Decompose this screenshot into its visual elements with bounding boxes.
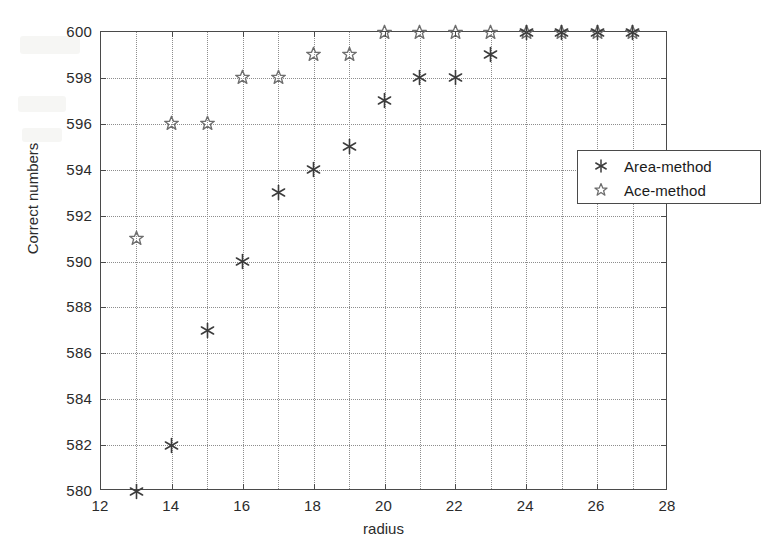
- legend-label: Area-method: [624, 158, 712, 175]
- data-point-ace-method: [447, 24, 464, 41]
- x-tick-label: 26: [588, 497, 605, 514]
- plot-area: Area-method Ace-method: [100, 31, 667, 490]
- x-tick-label: 18: [304, 497, 321, 514]
- gridline-vertical: [491, 32, 492, 489]
- gridline-horizontal: [101, 445, 666, 446]
- x-tick-label: 28: [658, 497, 675, 514]
- y-tick-label: 582: [44, 436, 92, 453]
- gridline-vertical: [207, 32, 208, 489]
- data-point-area-method: [589, 24, 606, 41]
- x-tick-mark: [385, 31, 386, 37]
- y-tick-label: 590: [44, 252, 92, 269]
- data-point-ace-method: [376, 24, 393, 41]
- x-tick-mark: [597, 31, 598, 37]
- gridline-vertical: [136, 32, 137, 489]
- gridline-horizontal: [101, 78, 666, 79]
- axis-ticks: [101, 32, 666, 489]
- y-tick-label: 588: [44, 298, 92, 315]
- x-tick-mark: [455, 31, 456, 37]
- x-tick-label: 14: [162, 497, 179, 514]
- data-point-area-method: [199, 322, 216, 339]
- x-tick-mark: [597, 484, 598, 490]
- y-tick-mark: [661, 399, 667, 400]
- y-tick-mark: [100, 124, 106, 125]
- data-point-area-method: [447, 69, 464, 86]
- data-point-ace-method: [163, 115, 180, 132]
- gridline-vertical: [278, 32, 279, 489]
- data-point-area-method: [305, 161, 322, 178]
- data-point-area-method: [411, 69, 428, 86]
- y-tick-label: 598: [44, 68, 92, 85]
- legend: Area-method Ace-method: [577, 150, 761, 204]
- x-tick-mark: [455, 484, 456, 490]
- y-tick-mark: [100, 399, 106, 400]
- gridline-vertical: [349, 32, 350, 489]
- gridline-horizontal: [101, 216, 666, 217]
- gridline-vertical: [243, 32, 244, 489]
- x-tick-mark: [172, 484, 173, 490]
- y-tick-label: 586: [44, 344, 92, 361]
- y-tick-mark: [661, 353, 667, 354]
- y-tick-mark: [661, 78, 667, 79]
- gridlines: [101, 32, 666, 489]
- data-point-area-method: [163, 437, 180, 454]
- data-point-ace-method: [305, 46, 322, 63]
- y-tick-mark: [100, 353, 106, 354]
- gridline-vertical: [526, 32, 527, 489]
- gridline-horizontal: [101, 124, 666, 125]
- y-tick-mark: [661, 445, 667, 446]
- data-point-ace-method: [411, 24, 428, 41]
- data-point-area-method: [624, 24, 641, 41]
- x-tick-label: 12: [91, 497, 108, 514]
- gridline-horizontal: [101, 353, 666, 354]
- y-tick-label: 600: [44, 23, 92, 40]
- gridline-horizontal: [101, 399, 666, 400]
- gridline-horizontal: [101, 307, 666, 308]
- y-tick-mark: [100, 78, 106, 79]
- x-tick-label: 24: [517, 497, 534, 514]
- x-tick-label: 16: [233, 497, 250, 514]
- y-tick-label: 580: [44, 482, 92, 499]
- gridline-vertical: [597, 32, 598, 489]
- y-axis-label: Correct numbers: [24, 99, 41, 299]
- y-tick-mark: [661, 262, 667, 263]
- gridline-vertical: [172, 32, 173, 489]
- legend-entry-ace-method: Ace-method: [578, 177, 760, 203]
- gridline-vertical: [455, 32, 456, 489]
- y-tick-label: 596: [44, 114, 92, 131]
- data-point-area-method: [270, 184, 287, 201]
- y-tick-label: 594: [44, 160, 92, 177]
- y-tick-mark: [100, 216, 106, 217]
- data-point-ace-method: [199, 115, 216, 132]
- data-point-area-method: [341, 138, 358, 155]
- legend-entry-area-method: Area-method: [578, 153, 760, 179]
- gridline-vertical: [385, 32, 386, 489]
- data-point-ace-method: [128, 230, 145, 247]
- x-tick-mark: [314, 31, 315, 37]
- y-tick-mark: [100, 262, 106, 263]
- data-point-ace-method: [518, 24, 535, 41]
- x-tick-mark: [172, 31, 173, 37]
- data-point-ace-method: [624, 24, 641, 41]
- y-tick-mark: [100, 445, 106, 446]
- star-outline-icon: [578, 182, 624, 198]
- y-tick-mark: [661, 124, 667, 125]
- data-point-area-method: [234, 253, 251, 270]
- data-point-ace-method: [589, 24, 606, 41]
- data-point-ace-method: [270, 69, 287, 86]
- data-point-ace-method: [482, 24, 499, 41]
- gridline-vertical: [633, 32, 634, 489]
- x-tick-mark: [526, 31, 527, 37]
- x-tick-mark: [385, 484, 386, 490]
- gridline-horizontal: [101, 262, 666, 263]
- legend-label: Ace-method: [624, 182, 706, 199]
- x-tick-label: 22: [446, 497, 463, 514]
- asterisk-icon: [578, 158, 624, 174]
- x-tick-label: 20: [375, 497, 392, 514]
- x-tick-mark: [314, 484, 315, 490]
- x-tick-mark: [243, 484, 244, 490]
- y-tick-mark: [100, 307, 106, 308]
- x-tick-mark: [526, 484, 527, 490]
- y-tick-label: 584: [44, 390, 92, 407]
